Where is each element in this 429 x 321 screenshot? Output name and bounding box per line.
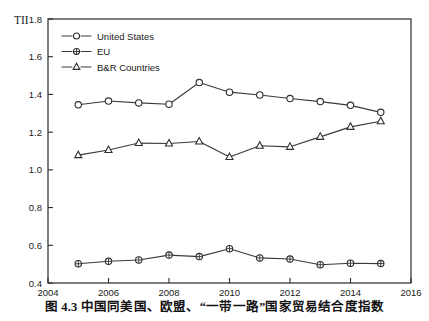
data-point-crossed-circle	[317, 262, 323, 268]
series-united-states	[75, 79, 384, 115]
series-eu	[75, 245, 384, 267]
data-point-circle	[196, 79, 202, 85]
y-tick-label: 1.2	[29, 127, 42, 138]
data-point-crossed-circle	[136, 257, 142, 263]
data-point-triangle	[256, 142, 263, 148]
legend-item-eu[interactable]: EU	[62, 46, 110, 57]
data-point-circle	[317, 98, 323, 104]
data-point-crossed-circle	[105, 258, 111, 264]
legend-label: B&R Countries	[97, 62, 160, 73]
data-point-triangle	[196, 138, 203, 144]
data-point-circle	[287, 95, 293, 101]
legend-label: EU	[97, 46, 110, 57]
x-axis-ticks: 2004200620082010201220142016	[37, 278, 421, 298]
data-point-triangle	[377, 117, 384, 123]
data-point-crossed-circle	[73, 48, 79, 54]
data-point-crossed-circle	[347, 260, 353, 266]
y-tick-label: 1.0	[29, 164, 42, 175]
data-point-triangle	[135, 139, 142, 145]
data-point-circle	[257, 92, 263, 98]
data-point-crossed-circle	[257, 255, 263, 261]
y-tick-label: 1.8	[29, 14, 42, 25]
legend-label: United States	[97, 31, 154, 42]
data-point-circle	[73, 33, 79, 39]
data-point-circle	[136, 100, 142, 106]
y-tick-label: 1.6	[29, 51, 42, 62]
data-point-crossed-circle	[226, 245, 232, 251]
data-point-crossed-circle	[287, 256, 293, 262]
series-b-r-countries	[75, 117, 385, 159]
y-axis-ticks: 0.40.60.81.01.21.41.61.8	[29, 14, 53, 289]
data-point-crossed-circle	[166, 252, 172, 258]
figure-caption: 图 4.3 中国同美国、欧盟、“一带一路”国家贸易结合度指数	[0, 296, 429, 315]
data-point-circle	[105, 98, 111, 104]
data-point-circle	[75, 102, 81, 108]
y-tick-label: 0.8	[29, 202, 42, 213]
data-point-crossed-circle	[75, 261, 81, 267]
data-point-circle	[166, 101, 172, 107]
y-tick-label: 1.4	[29, 89, 42, 100]
legend-item-united-states[interactable]: United States	[62, 31, 154, 42]
data-series-group	[75, 79, 385, 268]
figure-container: 0.40.60.81.01.21.41.61.8 200420062008201…	[0, 0, 429, 321]
chart-canvas: 0.40.60.81.01.21.41.61.8 200420062008201…	[0, 0, 429, 321]
data-point-crossed-circle	[378, 260, 384, 266]
legend-item-b-r-countries[interactable]: B&R Countries	[62, 62, 160, 73]
data-point-circle	[226, 89, 232, 95]
data-point-crossed-circle	[196, 253, 202, 259]
data-point-circle	[347, 102, 353, 108]
data-point-triangle	[73, 63, 80, 69]
y-tick-label: 0.6	[29, 240, 42, 251]
data-point-circle	[378, 109, 384, 115]
data-point-triangle	[165, 139, 172, 145]
y-axis-title: TII	[14, 14, 29, 26]
chart-legend: United StatesEUB&R Countries	[62, 31, 160, 73]
